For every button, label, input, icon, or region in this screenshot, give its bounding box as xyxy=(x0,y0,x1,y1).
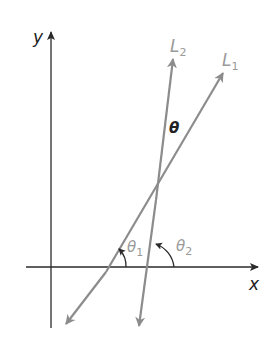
angle-between-lines-diagram: x y L1 L2 θ θ1 θ2 xyxy=(0,0,269,337)
theta2-label: θ2 xyxy=(176,237,192,258)
angle-theta2: θ2 xyxy=(156,237,192,267)
theta1-label: θ1 xyxy=(127,238,143,259)
y-axis-label: y xyxy=(32,27,44,47)
line-l1-segment-lower xyxy=(66,272,106,324)
line-l1: L1 xyxy=(66,50,238,324)
angle-between-label: θ xyxy=(169,119,179,137)
theta2-arc-icon xyxy=(156,244,174,267)
x-axis-label: x xyxy=(248,274,260,294)
line-l1-label: L1 xyxy=(222,50,238,73)
line-l1-segment xyxy=(106,73,223,272)
line-l2-segment-lower xyxy=(139,200,156,326)
line-l2: L2 xyxy=(139,36,186,326)
axes: x y xyxy=(26,27,260,328)
theta1-arc-icon xyxy=(119,249,126,267)
line-l2-label: L2 xyxy=(170,36,186,59)
